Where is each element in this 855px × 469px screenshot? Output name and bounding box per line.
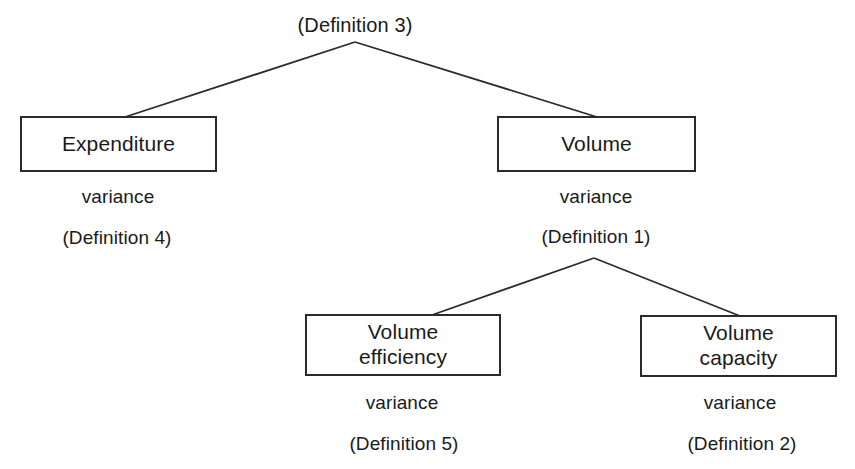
node-volume-efficiency-label-line1: Volume [368, 320, 439, 345]
node-volume-capacity[interactable]: Volume capacity [640, 315, 837, 377]
node-volume-efficiency[interactable]: Volume efficiency [305, 314, 501, 376]
connector-root-to-volume [355, 42, 597, 117]
connector-volume-to-volume-capacity [594, 258, 740, 316]
node-volume-efficiency-label-line2: efficiency [359, 345, 447, 370]
variance-hierarchy-diagram: (Definition 3) Expenditure variance (Def… [0, 0, 855, 469]
node-volume-definition-caption: (Definition 1) [496, 226, 696, 248]
node-volume-efficiency-variance-caption: variance [302, 392, 502, 414]
node-volume-capacity-label-line2: capacity [700, 346, 778, 371]
node-volume-efficiency-definition-caption: (Definition 5) [304, 433, 504, 455]
node-volume[interactable]: Volume [497, 116, 696, 172]
node-volume-label: Volume [561, 132, 632, 157]
connector-volume-to-volume-efficiency [432, 258, 594, 315]
node-volume-capacity-label-line1: Volume [703, 321, 774, 346]
root-apex-caption: (Definition 3) [255, 14, 455, 37]
connector-root-to-expenditure [125, 42, 355, 117]
node-expenditure-variance-caption: variance [18, 186, 218, 208]
node-volume-capacity-variance-caption: variance [640, 392, 840, 414]
node-volume-variance-caption: variance [496, 186, 696, 208]
node-volume-capacity-definition-caption: (Definition 2) [642, 433, 842, 455]
node-expenditure[interactable]: Expenditure [20, 116, 217, 172]
node-expenditure-definition-caption: (Definition 4) [17, 227, 217, 249]
node-expenditure-label: Expenditure [62, 132, 175, 157]
